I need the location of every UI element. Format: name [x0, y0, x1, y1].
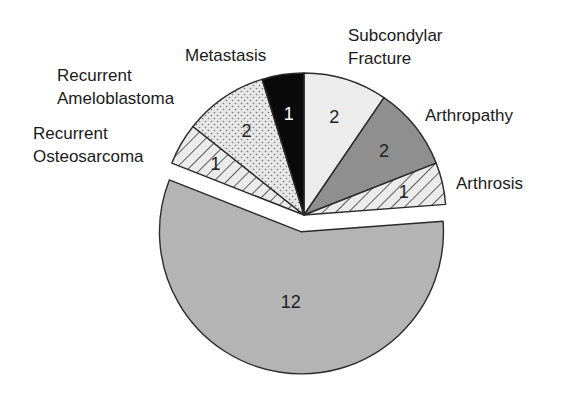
slice-value: 1	[284, 104, 294, 124]
label-line: Recurrent	[57, 64, 174, 87]
slice-value: 12	[281, 292, 301, 312]
label-metastasis: Metastasis	[185, 44, 266, 67]
label-arthropathy: Arthropathy	[425, 104, 513, 127]
slice-value: 2	[379, 141, 389, 161]
label-arthrosis: Arthrosis	[456, 172, 523, 195]
label-line: Subcondylar	[348, 24, 443, 47]
slice-value: 1	[210, 154, 220, 174]
pie-slices: 22112121	[159, 73, 445, 374]
label-recurrent-osteosarcoma: Recurrent Osteosarcoma	[33, 122, 144, 168]
label-line: Recurrent	[33, 122, 144, 145]
label-line: Osteosarcoma	[33, 145, 144, 168]
label-line: Ameloblastoma	[57, 87, 174, 110]
label-line: Metastasis	[185, 44, 266, 67]
pie-chart: 22112121	[0, 0, 564, 408]
label-line: Fracture	[348, 47, 443, 70]
slice-value: 1	[399, 182, 409, 202]
slice-value: 2	[241, 121, 251, 141]
label-subcondylar-fracture: Subcondylar Fracture	[348, 24, 443, 70]
label-line: Arthrosis	[456, 172, 523, 195]
label-line: Arthropathy	[425, 104, 513, 127]
slice-value: 2	[329, 107, 339, 127]
label-recurrent-ameloblastoma: Recurrent Ameloblastoma	[57, 64, 174, 110]
